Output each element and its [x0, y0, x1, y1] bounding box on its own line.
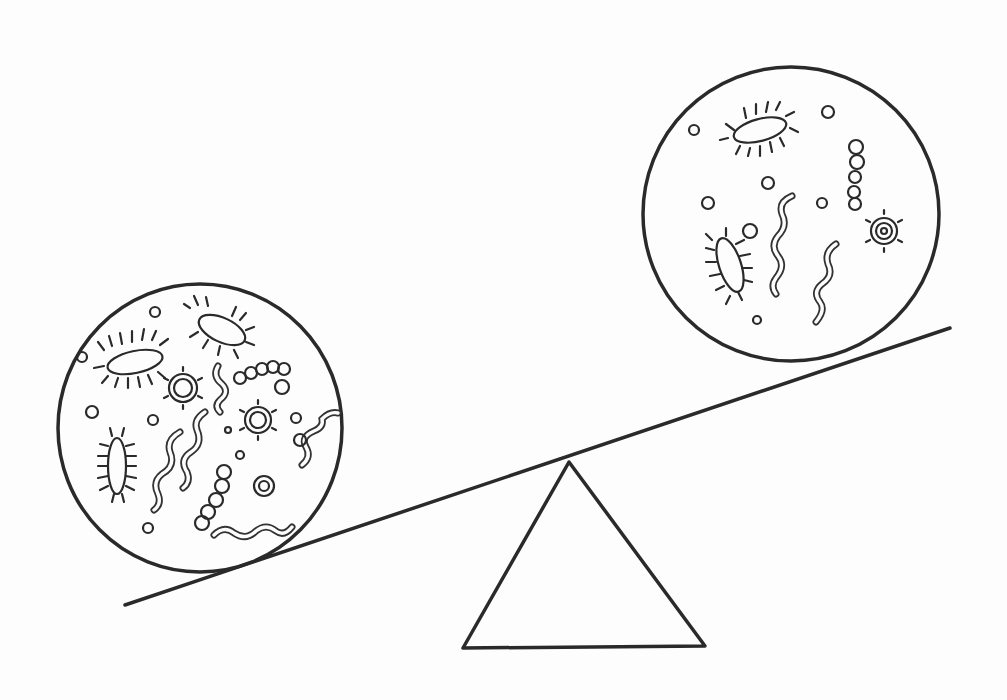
- rod-bacterium-icon: [720, 102, 798, 156]
- chain-cocci-icon: [195, 465, 231, 530]
- left-microbe-circle: [58, 284, 342, 572]
- chain-cocci-icon: [848, 140, 864, 210]
- virus-icon: [866, 210, 902, 252]
- rod-bacterium-icon: [98, 428, 136, 502]
- fulcrum-triangle: [463, 462, 705, 648]
- rod-bacterium-icon: [706, 228, 752, 304]
- virus-icon: [164, 367, 202, 409]
- drawing-canvas: [0, 0, 1007, 700]
- rod-bacterium-icon: [94, 329, 168, 388]
- right-microbe-circle: [643, 67, 939, 361]
- seesaw-illustration: [0, 0, 1007, 700]
- spiral-bacterium-icon: [154, 366, 338, 537]
- virus-icon: [240, 400, 276, 440]
- cocci-icon: [689, 106, 834, 324]
- spiral-bacterium-icon: [773, 196, 836, 322]
- rod-bacterium-icon: [184, 296, 254, 358]
